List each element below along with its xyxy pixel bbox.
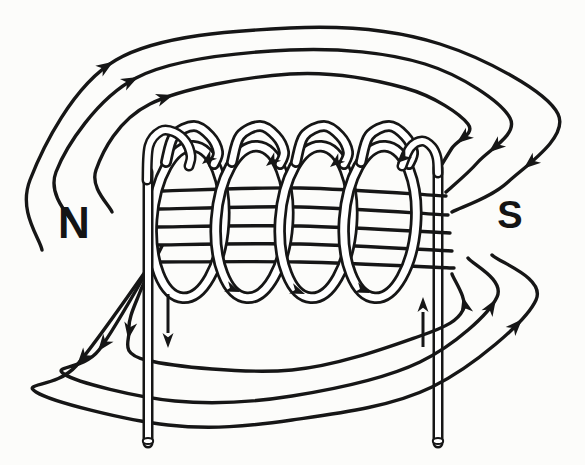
north-pole-label: N — [58, 198, 90, 247]
field-line-interior — [163, 188, 446, 196]
current-direction-arrows — [163, 294, 429, 348]
south-pole-label: S — [497, 194, 522, 236]
field-line-interior — [156, 226, 450, 233]
solenoid-field-diagram: N S — [0, 0, 585, 465]
field-direction-arrowhead — [155, 89, 175, 107]
right-wire-lead-layer — [433, 168, 443, 444]
right-lead-end-cap — [433, 438, 443, 444]
field-line-interior — [159, 207, 448, 215]
diagram-canvas: N S — [0, 0, 585, 465]
left-lead-end-cap — [143, 438, 153, 444]
current-down-arrow-head — [163, 333, 174, 348]
current-up-arrow-head — [418, 297, 429, 312]
